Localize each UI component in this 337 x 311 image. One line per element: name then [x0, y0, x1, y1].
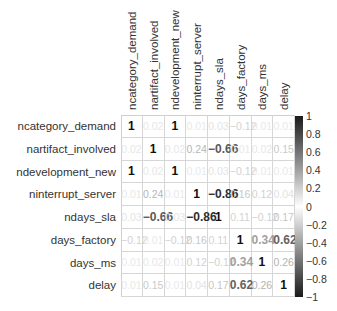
row-label: nartifact_involved — [0, 138, 116, 161]
heatmap-cell: 0.11 — [230, 206, 252, 229]
cell-value: 0.01 — [230, 143, 251, 155]
cell-value: 0.12 — [186, 256, 207, 268]
heatmap-cell: 0.02 — [143, 115, 165, 138]
cell-value: 0.34 — [252, 233, 273, 247]
cell-value: 0.01 — [273, 165, 294, 177]
heatmap-cell: −0.12 — [208, 252, 230, 275]
heatmap-cell: 0.01 — [121, 183, 143, 206]
heatmap-cell: 1 — [165, 161, 187, 184]
colorbar-tick-label: −0.2 — [306, 219, 327, 231]
cell-value: 0.01 — [186, 120, 207, 132]
heatmap-cell: 0.01 — [121, 274, 143, 297]
row-label: ndevelopment_new — [0, 161, 116, 184]
heatmap-cell: 0.02 — [121, 138, 143, 161]
heatmap-cell: 0.62 — [273, 229, 295, 252]
heatmap-cell: 0.16 — [230, 183, 252, 206]
cell-value: 0.01 — [121, 256, 142, 268]
cell-value: 0.26 — [252, 279, 273, 291]
cell-value: 1 — [186, 187, 207, 201]
cell-value: 0.01 — [165, 279, 186, 291]
heatmap-cell: 0.01 — [186, 161, 208, 184]
colorbar-tick-label: 1 — [306, 110, 312, 122]
column-label: ninterrupt_server — [186, 0, 208, 110]
column-label-text: ndays_sla — [213, 58, 225, 110]
cell-value: 0.03 — [165, 211, 186, 223]
heatmap-cell: 0.01 — [273, 115, 295, 138]
cell-value: 0.01 — [121, 188, 142, 200]
heatmap-cell: 0.02 — [143, 161, 165, 184]
heatmap-cell: 0.01 — [165, 252, 187, 275]
heatmap-cell: 0.01 — [186, 115, 208, 138]
colorbar — [295, 116, 303, 297]
heatmap-cell: 0.15 — [273, 138, 295, 161]
heatmap-cell: 0.01 — [165, 274, 187, 297]
heatmap-cell: 0.17 — [273, 206, 295, 229]
column-label: ndevelopment_new — [165, 0, 187, 110]
heatmap-cell: 0.12 — [186, 252, 208, 275]
heatmap-cell: 0.03 — [208, 161, 230, 184]
cell-value: 0.24 — [143, 188, 164, 200]
colorbar-tick-label: 0.4 — [306, 164, 321, 176]
heatmap-cell: −0.66 — [208, 138, 230, 161]
cell-value: 0.01 — [273, 120, 294, 132]
heatmap-cell: 0.12 — [252, 183, 274, 206]
column-label: ncategory_demand — [121, 0, 143, 110]
heatmap-cell: −0.12 — [252, 206, 274, 229]
heatmap-cell: 0.04 — [273, 183, 295, 206]
cell-value: 0.03 — [208, 120, 229, 132]
colorbar-tick-label: −0.8 — [306, 273, 327, 285]
heatmap-cell: 0.03 — [165, 206, 187, 229]
cell-value: −0.12 — [230, 120, 251, 132]
cell-value: 0.01 — [252, 165, 273, 177]
cell-value: 0.26 — [273, 256, 294, 268]
heatmap-cell: −0.12 — [165, 229, 187, 252]
heatmap-cell: 0.24 — [186, 138, 208, 161]
cell-value: 0.03 — [121, 211, 142, 223]
heatmap-cell: −0.12 — [121, 229, 143, 252]
heatmap-cell: −0.86 — [208, 183, 230, 206]
heatmap-cell: 0.17 — [208, 274, 230, 297]
colorbar-tick-label: 0 — [306, 201, 312, 213]
cell-value: 0.15 — [273, 143, 294, 155]
heatmap-cell: 0.11 — [208, 229, 230, 252]
heatmap-cell: −0.86 — [186, 206, 208, 229]
cell-value: 0.15 — [143, 279, 164, 291]
column-label-text: days_ms — [256, 64, 268, 110]
heatmap-cell: 0.03 — [208, 115, 230, 138]
cell-value: 0.16 — [230, 188, 251, 200]
cell-value: 0.12 — [252, 188, 273, 200]
cell-value: 0.01 — [165, 256, 186, 268]
column-label-text: ndevelopment_new — [169, 10, 181, 110]
cell-value: 1 — [273, 278, 294, 292]
cell-value: 0.62 — [273, 233, 294, 247]
heatmap-cell: 1 — [230, 229, 252, 252]
heatmap-cell: 0.16 — [186, 229, 208, 252]
row-label: delay — [0, 274, 116, 297]
column-label: days_ms — [252, 0, 274, 110]
cell-value: 0.02 — [121, 143, 142, 155]
heatmap-cell: 0.04 — [186, 274, 208, 297]
cell-value: 0.11 — [230, 211, 251, 223]
cell-value: 1 — [143, 142, 164, 156]
cell-value: −0.12 — [230, 165, 251, 177]
cell-value: 0.01 — [165, 188, 186, 200]
cell-value: 0.01 — [186, 165, 207, 177]
cell-value: 0.02 — [143, 256, 164, 268]
cell-value: 0.01 — [121, 279, 142, 291]
heatmap-cell: 0.02 — [165, 138, 187, 161]
cell-value: 0.02 — [252, 143, 273, 155]
heatmap-cell: 0.01 — [143, 229, 165, 252]
cell-value: 0.02 — [143, 165, 164, 177]
cell-value: 0.02 — [143, 120, 164, 132]
cell-value: 0.03 — [208, 165, 229, 177]
heatmap-cell: 1 — [252, 252, 274, 275]
column-label-text: nartifact_involved — [148, 21, 160, 111]
cell-value: 0.01 — [143, 234, 164, 246]
heatmap-cell: 1 — [121, 115, 143, 138]
heatmap-cell: −0.12 — [230, 161, 252, 184]
row-label: ninterrupt_server — [0, 183, 116, 206]
cell-value: −0.66 — [143, 210, 164, 224]
heatmap-cell: 0.03 — [121, 206, 143, 229]
column-label: days_factory — [230, 0, 252, 110]
cell-value: −0.86 — [208, 187, 229, 201]
